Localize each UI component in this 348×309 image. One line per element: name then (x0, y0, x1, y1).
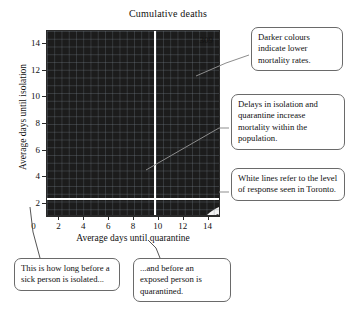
y-tick-mark (42, 150, 46, 151)
callout-darker-colours: Darker colours indicate lower mortality … (251, 27, 343, 71)
x-tick-mark (208, 216, 209, 220)
callout-delays: Delays in isolation and quarantine incre… (231, 94, 345, 150)
x-tick-label: 0 (31, 221, 36, 231)
y-tick-mark (42, 203, 46, 204)
y-tick-mark (42, 123, 46, 124)
x-tick-label: 12 (178, 221, 187, 231)
chart-title: Cumulative deaths (98, 8, 238, 19)
x-tick-mark (183, 216, 184, 220)
callout-white-lines: White lines refer to the level of respon… (231, 168, 345, 201)
x-tick-label: 14 (203, 221, 212, 231)
toronto-reference-line-vertical (154, 31, 156, 215)
x-tick-label: 10 (153, 221, 162, 231)
x-tick-mark (83, 216, 84, 220)
plot-inner: 309 (47, 31, 219, 215)
x-axis-label: Average days until quarantine (46, 233, 220, 243)
x-tick-label: 6 (106, 221, 111, 231)
callout-sick-person: This is how long before a sick person is… (14, 258, 120, 291)
x-tick-label: 8 (131, 221, 136, 231)
y-axis-label: Average days until isolation (18, 32, 28, 202)
x-tick-mark (58, 216, 59, 220)
x-tick-label: 2 (56, 221, 61, 231)
y-tick-mark (42, 96, 46, 97)
toronto-reference-line-horizontal (47, 198, 219, 200)
corner-value-label: 309 (200, 35, 214, 45)
callout-exposed-person: ...and before an exposed person is quara… (133, 258, 231, 302)
y-axis (46, 30, 47, 216)
x-tick-mark (133, 216, 134, 220)
x-tick-mark (108, 216, 109, 220)
x-tick-label: 4 (81, 221, 86, 231)
y-tick-mark (42, 176, 46, 177)
figure-root: Cumulative deaths (0, 0, 348, 309)
contour-bands (47, 31, 219, 215)
contour-plot: 309 (46, 30, 220, 216)
x-tick-mark (158, 216, 159, 220)
y-tick-mark (42, 43, 46, 44)
y-tick-mark (42, 70, 46, 71)
